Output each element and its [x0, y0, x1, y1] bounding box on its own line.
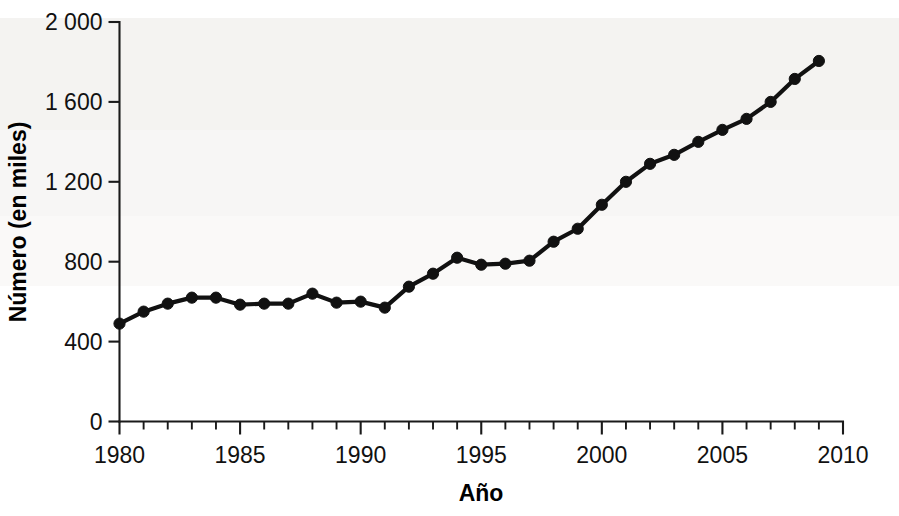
y-axis-tick-labels: 04008001 2001 6002 000: [45, 9, 103, 435]
data-point: [162, 298, 173, 309]
data-point: [307, 288, 318, 299]
data-point: [500, 258, 511, 269]
data-point: [765, 96, 776, 107]
y-tick-label: 800: [64, 249, 102, 275]
data-point: [331, 297, 342, 308]
y-axis-title: Número (en miles): [5, 122, 31, 323]
data-point: [741, 113, 752, 124]
data-point: [644, 158, 655, 169]
data-point: [259, 298, 270, 309]
x-axis-tick-labels: 1980198519901995200020052010: [94, 442, 869, 468]
data-point: [693, 136, 704, 147]
data-point: [620, 176, 631, 187]
y-tick-label: 400: [64, 329, 102, 355]
data-point: [717, 124, 728, 135]
y-tick-label: 1 600: [45, 89, 103, 115]
data-point: [476, 259, 487, 270]
data-point: [452, 252, 463, 263]
x-axis-ticks: [120, 422, 844, 435]
data-point: [596, 199, 607, 210]
data-point: [572, 223, 583, 234]
data-point: [669, 149, 680, 160]
data-point: [283, 298, 294, 309]
y-tick-label: 1 200: [45, 169, 103, 195]
data-point: [210, 292, 221, 303]
y-axis-ticks: [109, 22, 120, 422]
data-point: [234, 299, 245, 310]
chart-figure: 04008001 2001 6002 000 19801985199019952…: [0, 0, 899, 516]
x-tick-label: 2010: [817, 442, 868, 468]
data-markers: [114, 55, 825, 329]
y-tick-label: 0: [90, 409, 103, 435]
data-point: [524, 255, 535, 266]
x-axis-title: Año: [459, 480, 504, 506]
data-point: [813, 55, 824, 66]
data-point: [379, 302, 390, 313]
x-tick-label: 1995: [456, 442, 507, 468]
data-line: [120, 61, 819, 324]
x-tick-label: 1990: [335, 442, 386, 468]
data-point: [114, 318, 125, 329]
data-point: [427, 268, 438, 279]
x-tick-label: 2005: [697, 442, 748, 468]
data-point: [355, 296, 366, 307]
y-tick-label: 2 000: [45, 9, 103, 35]
line-chart: 04008001 2001 6002 000 19801985199019952…: [0, 0, 899, 516]
data-point: [403, 281, 414, 292]
data-point: [789, 73, 800, 84]
x-tick-label: 2000: [576, 442, 627, 468]
x-tick-label: 1985: [214, 442, 265, 468]
x-tick-label: 1980: [94, 442, 145, 468]
data-point: [186, 292, 197, 303]
data-point: [138, 306, 149, 317]
data-point: [548, 236, 559, 247]
